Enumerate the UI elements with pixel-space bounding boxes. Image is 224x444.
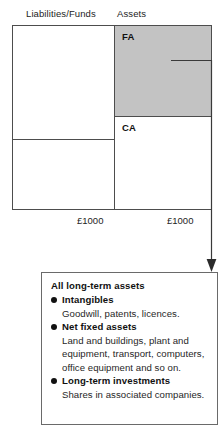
- liabilities-funds-lower-block: [12, 139, 115, 210]
- list-item: Net fixed assets Land and buildings, pla…: [51, 320, 210, 374]
- bullet-icon: [51, 378, 57, 384]
- connector-arrowhead: [207, 259, 217, 272]
- callout-item-description: Goodwill, patents, licences.: [51, 307, 210, 321]
- column-header-assets: Assets: [117, 8, 146, 19]
- column-header-liabilities-funds: Liabilities/Funds: [26, 8, 96, 19]
- callout-item-heading-text: Long-term investments: [62, 375, 170, 386]
- list-item: Long-term investments Shares in associat…: [51, 374, 210, 401]
- callout-item-description: Shares in associated companies.: [51, 388, 210, 402]
- callout-item-heading: Intangibles: [51, 293, 210, 307]
- bullet-icon: [51, 297, 57, 303]
- list-item: Intangibles Goodwill, patents, licences.: [51, 293, 210, 320]
- callout-item-heading: Long-term investments: [51, 374, 210, 388]
- callout-item-heading-text: Net fixed assets: [62, 321, 137, 332]
- liabilities-funds-upper-block: [12, 25, 115, 140]
- callout-title: All long-term assets: [51, 279, 210, 292]
- current-assets-block: CA: [114, 116, 212, 210]
- liabilities-total-label: £1000: [77, 215, 103, 226]
- long-term-assets-callout: All long-term assets Intangibles Goodwil…: [41, 272, 218, 425]
- fixed-assets-block: FA: [114, 25, 212, 117]
- balance-sheet-diagram: FA CA: [12, 25, 212, 210]
- callout-item-heading: Net fixed assets: [51, 320, 210, 334]
- bullet-icon: [51, 324, 57, 330]
- assets-total-label: £1000: [167, 215, 193, 226]
- current-assets-label: CA: [122, 122, 136, 133]
- callout-item-heading-text: Intangibles: [62, 294, 114, 305]
- fixed-assets-label: FA: [122, 31, 135, 42]
- callout-item-description: Land and buildings, plant and equipment,…: [51, 334, 210, 375]
